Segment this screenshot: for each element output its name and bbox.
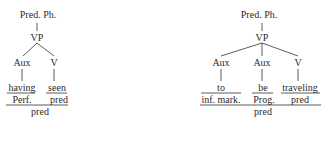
- function-pred: pred: [291, 95, 309, 105]
- combined-function: pred: [254, 107, 272, 117]
- word-having: having: [8, 83, 35, 93]
- vp-label: VP: [31, 33, 44, 43]
- root-label: Pred. Ph.: [20, 10, 56, 20]
- function-pred: pred: [50, 95, 68, 105]
- word-to: to: [217, 83, 225, 93]
- function-perf: Perf.: [12, 95, 31, 105]
- function-inf-mark: inf. mark.: [201, 95, 240, 105]
- root-label: Pred. Ph.: [241, 10, 277, 20]
- v-label: V: [50, 58, 57, 68]
- vp-label: VP: [256, 33, 269, 43]
- tree-lines: [0, 0, 329, 149]
- word-be: be: [258, 83, 267, 93]
- combined-function: pred: [31, 107, 49, 117]
- function-prog: Prog.: [253, 95, 274, 105]
- aux-label: Aux: [13, 58, 30, 68]
- aux-label: Aux: [253, 58, 270, 68]
- aux-label: Aux: [212, 58, 229, 68]
- v-label: V: [294, 58, 301, 68]
- word-seen: seen: [48, 83, 66, 93]
- word-traveling: traveling: [282, 83, 318, 93]
